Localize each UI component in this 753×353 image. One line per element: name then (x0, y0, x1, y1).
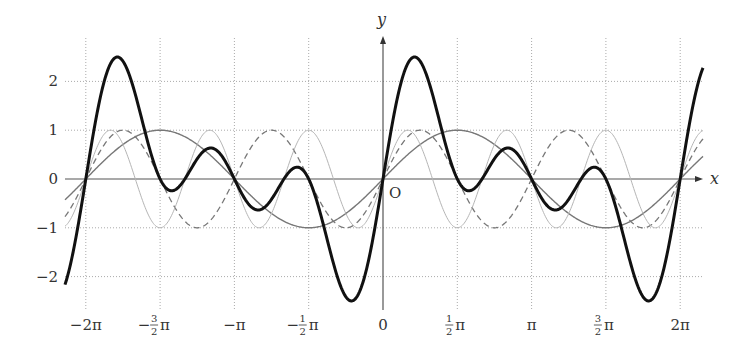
y-tick-label: 0 (48, 170, 58, 188)
y-tick-label: −2 (36, 268, 58, 286)
y-axis-arrow-icon (380, 36, 386, 44)
sine-sum-plot: 210−1−2−2π−32π−π−12π012ππ32π2π x y O (0, 0, 753, 353)
curves (65, 57, 703, 301)
fraction-denominator: 2 (446, 326, 452, 337)
minus-sign: − (286, 316, 299, 334)
x-tick-label: π (527, 316, 537, 334)
pi-symbol: π (604, 316, 614, 334)
x-tick-label: 32π (594, 313, 614, 337)
x-tick-label: 12π (445, 313, 465, 337)
fraction-denominator: 2 (595, 326, 601, 337)
fraction-denominator: 2 (151, 326, 157, 337)
fraction-numerator: 1 (300, 313, 306, 324)
tick-labels: 210−1−2−2π−32π−π−12π012ππ32π2π (36, 72, 690, 337)
curve-sin-x-sin-2x-sin-3x (65, 57, 703, 301)
x-tick-label: −12π (286, 313, 318, 337)
y-tick-label: 1 (48, 121, 58, 139)
pi-symbol: π (309, 316, 319, 334)
x-tick-label: −2π (70, 316, 102, 334)
pi-symbol: π (455, 316, 465, 334)
x-tick-label: 2π (670, 316, 690, 334)
fraction-numerator: 3 (595, 313, 601, 324)
y-tick-label: 2 (48, 72, 58, 90)
origin-label: O (389, 184, 401, 202)
x-tick-label: −π (223, 316, 246, 334)
y-axis-label: y (376, 10, 387, 29)
x-tick-label: 0 (378, 316, 388, 334)
x-axis-arrow-icon (695, 176, 703, 182)
x-axis-label: x (710, 169, 719, 188)
chart-container: 210−1−2−2π−32π−π−12π012ππ32π2π x y O (0, 0, 753, 353)
x-tick-label: −32π (138, 313, 170, 337)
y-tick-label: −1 (36, 219, 58, 237)
fraction-denominator: 2 (300, 326, 306, 337)
fraction-numerator: 3 (151, 313, 157, 324)
fraction-numerator: 1 (446, 313, 452, 324)
minus-sign: − (138, 316, 151, 334)
pi-symbol: π (160, 316, 170, 334)
